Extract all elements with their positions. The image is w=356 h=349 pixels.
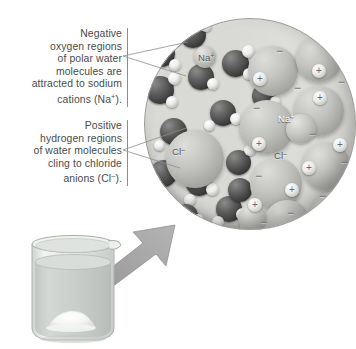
charge-positive: + — [285, 183, 299, 197]
hydrogen-atom — [242, 45, 255, 58]
charge-positive: + — [248, 198, 262, 212]
salt-dissolution-figure: Na+ Cl– Na+ Cl– + + + + + + + + − − − − … — [0, 0, 356, 349]
charge-positive: + — [313, 91, 327, 105]
oxygen-atom — [216, 196, 242, 222]
lattice-chloride-ion — [310, 192, 354, 230]
charge-negative: − — [294, 82, 301, 94]
charge-positive: + — [333, 138, 347, 152]
charge-negative: − — [253, 102, 260, 114]
hydrogen-atom — [154, 140, 165, 151]
water-surface — [35, 255, 111, 270]
oxygen-atom — [222, 50, 249, 77]
charge-positive: + — [312, 64, 326, 78]
hydrogen-atom — [206, 183, 219, 196]
charge-negative: − — [276, 45, 283, 57]
beaker-illustration — [22, 232, 130, 344]
hydrogen-atom — [204, 120, 215, 131]
ion-label-na-solution: Na+ — [198, 52, 214, 63]
beaker-rim-inner — [36, 239, 110, 253]
ion-label-na-lattice: Na+ — [278, 113, 294, 124]
lattice-chloride-ion — [240, 100, 294, 154]
charge-negative: − — [338, 76, 345, 88]
hydrogen-atom — [236, 208, 249, 221]
callout-positive-hydrogen: Positive hydrogen regions of water molec… — [4, 120, 128, 186]
hydrogen-atom — [200, 20, 212, 32]
oxygen-atom — [186, 170, 212, 196]
oxygen-atom — [146, 76, 174, 104]
oxygen-atom — [226, 150, 251, 175]
hydrogen-atom — [270, 96, 281, 107]
salt-pile-base — [46, 324, 96, 332]
charge-negative: − — [255, 170, 262, 182]
beaker-bottom-shadow — [40, 335, 106, 343]
charge-negative: − — [287, 207, 294, 219]
hydrogen-atom — [207, 78, 219, 90]
charge-positive: + — [252, 137, 266, 151]
hydrogen-atom — [184, 194, 196, 206]
hydrogen-atom — [166, 96, 178, 108]
hydrogen-atom — [212, 216, 224, 228]
callout-negative-oxygen: Negative oxygen regions of polar water m… — [4, 28, 128, 107]
ion-label-cl-lattice: Cl– — [274, 150, 287, 161]
lattice-chloride-ion — [248, 46, 298, 96]
charge-negative: − — [309, 128, 316, 140]
oxygen-atom — [210, 100, 236, 126]
charge-negative: − — [341, 156, 348, 168]
oxygen-atom — [188, 64, 214, 90]
charge-negative: − — [260, 216, 267, 228]
ion-label-cl-solution: Cl– — [172, 146, 185, 157]
hydrogen-atom — [230, 113, 242, 125]
beaker-spout — [108, 241, 121, 250]
oxygen-atom — [228, 178, 252, 202]
hydrogen-atom — [193, 214, 204, 225]
hydrogen-atom — [168, 72, 181, 85]
oxygen-atom — [194, 136, 216, 158]
charge-negative: − — [319, 190, 326, 202]
charge-positive: + — [253, 72, 267, 86]
oxygen-atom — [150, 160, 177, 187]
oxygen-atom — [160, 118, 187, 145]
chloride-ion-solution — [166, 130, 224, 188]
hydrogen-atom — [169, 59, 181, 71]
charge-positive: + — [302, 161, 316, 175]
